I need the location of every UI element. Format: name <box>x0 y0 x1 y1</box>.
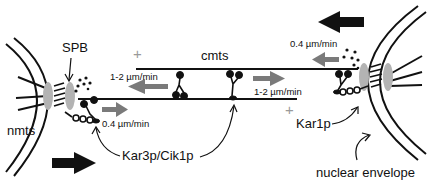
right-spb-rate-label: 0.4 µm/min <box>290 38 337 49</box>
kar3-cik1-label: Kar3p/Cik1p <box>122 148 194 163</box>
left-spb-motion-small-arrow <box>102 102 128 117</box>
kar1-pointer-head <box>351 107 358 114</box>
nuclear-envelope-label: nuclear envelope <box>316 165 415 180</box>
right-nucleus-motion-arrow <box>318 11 364 33</box>
left-spb-outer-plaque <box>65 82 75 110</box>
left-nuclear-envelope-inner <box>6 44 37 172</box>
right-nucleus <box>342 6 426 160</box>
right-spb-inner-plaque <box>383 63 393 91</box>
kar3-pointer-right <box>200 106 234 157</box>
lower-rate-label: 1-2 µm/min <box>254 86 302 97</box>
left-spb-rate-label: 0.4 µm/min <box>102 118 149 129</box>
cmts-label: cmts <box>201 48 229 63</box>
spb-label: SPB <box>62 40 88 55</box>
right-tubulin-dots <box>342 48 359 69</box>
kar1-label: Kar1p <box>296 116 331 131</box>
nmts-label: nmts <box>7 123 36 138</box>
kar3-motor-right-spb <box>334 71 352 95</box>
karyogamy-diagram: SPB nmts <box>0 0 430 186</box>
left-spb-inner-plaque <box>43 82 53 110</box>
kar3-motor-upper <box>173 72 188 100</box>
right-spb-motion-small-arrow <box>312 52 339 67</box>
kar3-motor-lower <box>227 71 243 101</box>
upper-plus-end: + <box>133 45 142 62</box>
upper-rate-label: 1-2 µm/min <box>110 71 158 82</box>
spb-pointer-arrow <box>69 58 71 80</box>
left-spb-core <box>54 83 65 106</box>
kar1-left <box>65 112 93 123</box>
kar1-pointer <box>332 108 357 124</box>
kar3-motor-left-spb <box>81 97 100 124</box>
right-nuclear-envelope-outer <box>368 6 418 160</box>
right-nmts <box>390 56 422 86</box>
lower-plus-end: + <box>285 101 294 118</box>
left-tubulin-dots <box>74 76 91 92</box>
lower-right-motion-arrow <box>253 71 285 86</box>
left-nucleus-motion-arrow <box>52 152 96 174</box>
